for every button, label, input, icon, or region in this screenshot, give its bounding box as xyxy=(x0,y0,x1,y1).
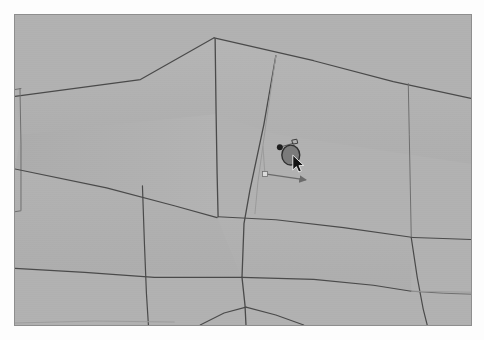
gizmo-origin-handle[interactable] xyxy=(262,171,267,176)
gizmo-endpoint-dot[interactable] xyxy=(277,144,283,150)
mesh-wireframe-canvas[interactable] xyxy=(15,15,471,325)
mesh-faces xyxy=(15,15,471,325)
screenshot-root: 3D viewport solid low-poly quad mesh wir… xyxy=(0,0,484,340)
viewport-3d[interactable] xyxy=(14,14,472,326)
